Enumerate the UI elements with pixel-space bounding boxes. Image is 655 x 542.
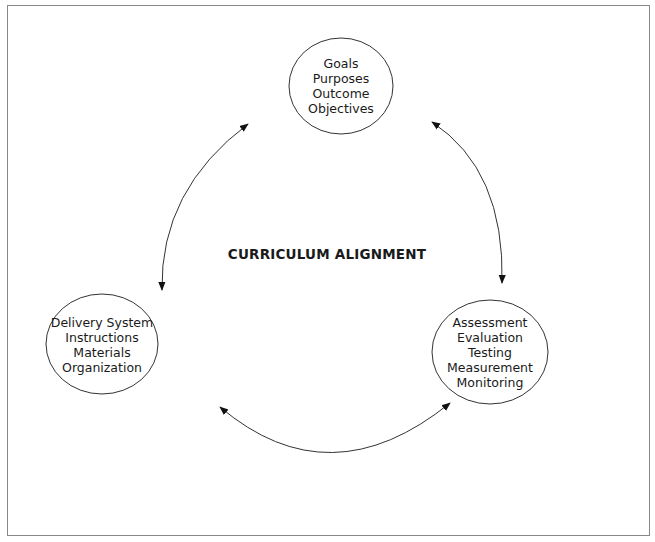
node-left-label: Delivery System Instructions Materials O…	[51, 315, 153, 375]
node-right-line: Testing	[447, 345, 533, 360]
node-top-line: Objectives	[308, 101, 374, 116]
arrow-left-right	[220, 403, 450, 453]
node-right-line: Assessment	[447, 315, 533, 330]
arrow-top-right	[432, 122, 502, 283]
node-top-label: Goals Purposes Outcome Objectives	[308, 56, 374, 116]
arrow-top-left	[162, 124, 248, 290]
node-right-line: Monitoring	[447, 375, 533, 390]
diagram-title: CURRICULUM ALIGNMENT	[228, 246, 426, 262]
node-left-line: Instructions	[51, 330, 153, 345]
node-left-line: Delivery System	[51, 315, 153, 330]
node-top-line: Purposes	[308, 71, 374, 86]
node-right-line: Measurement	[447, 360, 533, 375]
node-right-line: Evaluation	[447, 330, 533, 345]
node-left-line: Materials	[51, 345, 153, 360]
node-right-label: Assessment Evaluation Testing Measuremen…	[447, 315, 533, 390]
node-top-line: Goals	[308, 56, 374, 71]
node-top-line: Outcome	[308, 86, 374, 101]
node-left-line: Organization	[51, 360, 153, 375]
